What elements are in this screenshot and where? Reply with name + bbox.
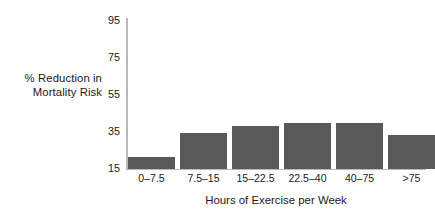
bar-slot-1 bbox=[180, 18, 227, 169]
y-tick-label-95: 95 bbox=[98, 15, 120, 26]
y-axis-title-line-2: Mortality Risk bbox=[4, 86, 102, 100]
y-axis-title-line-1: % Reduction in bbox=[4, 72, 102, 86]
bar-slot-3 bbox=[284, 18, 331, 169]
bar-1[interactable] bbox=[180, 133, 227, 169]
y-tick-label-75: 75 bbox=[98, 52, 120, 63]
x-axis-line bbox=[126, 169, 426, 170]
x-tick-label-0: 0–7.5 bbox=[128, 172, 175, 184]
bar-3[interactable] bbox=[284, 123, 331, 168]
bar-slot-4 bbox=[336, 18, 383, 169]
x-tick-label-2: 15–22.5 bbox=[232, 172, 279, 184]
bar-slot-5 bbox=[388, 18, 435, 169]
bar-slot-0 bbox=[128, 18, 175, 169]
bar-series bbox=[128, 18, 425, 169]
x-tick-label-3: 22.5–40 bbox=[284, 172, 331, 184]
y-tick-label-15: 15 bbox=[98, 163, 120, 174]
y-tick-label-35: 35 bbox=[98, 126, 120, 137]
x-tick-label-1: 7.5–15 bbox=[180, 172, 227, 184]
x-tick-label-5: >75 bbox=[388, 172, 435, 184]
bar-5[interactable] bbox=[388, 135, 435, 169]
y-axis-title: % Reduction in Mortality Risk bbox=[4, 72, 102, 99]
x-tick-label-4: 40–75 bbox=[336, 172, 383, 184]
bar-4[interactable] bbox=[336, 123, 383, 168]
x-axis-title: Hours of Exercise per Week bbox=[126, 194, 426, 207]
y-tick-label-55: 55 bbox=[98, 89, 120, 100]
bar-0[interactable] bbox=[128, 157, 175, 168]
bar-2[interactable] bbox=[232, 126, 279, 168]
bar-slot-2 bbox=[232, 18, 279, 169]
